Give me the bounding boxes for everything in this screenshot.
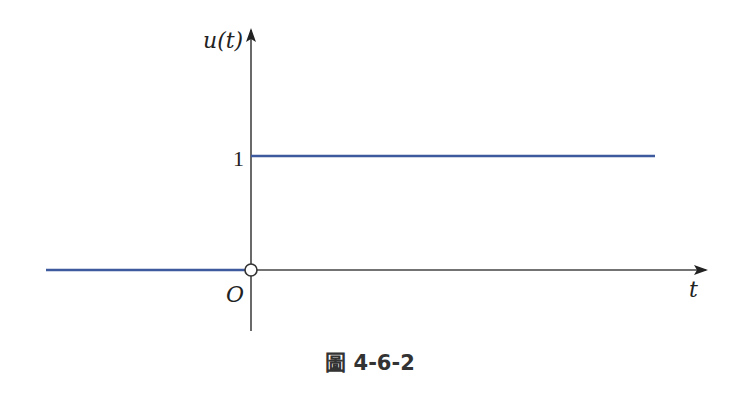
figure: u(t) 1 O t 圖 4-6-2 — [0, 0, 740, 393]
origin-label: O — [226, 282, 244, 307]
y-axis-label: u(t) — [203, 28, 243, 53]
chart-svg: u(t) 1 O t — [0, 0, 740, 393]
y-tick-label-one: 1 — [233, 146, 244, 171]
open-circle-marker — [245, 264, 257, 276]
figure-caption: 圖 4-6-2 — [0, 346, 740, 376]
x-axis-label: t — [689, 277, 698, 302]
